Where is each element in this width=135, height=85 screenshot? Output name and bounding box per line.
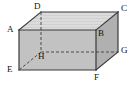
vertex-label-H: H	[38, 52, 45, 61]
cuboid-drawing	[0, 0, 135, 85]
vertex-label-A: A	[7, 25, 14, 34]
geometry-figure: A B C D E F G H	[0, 0, 135, 85]
vertex-label-D: D	[34, 2, 41, 11]
vertex-label-C: C	[121, 4, 127, 13]
vertex-label-B: B	[98, 29, 104, 38]
vertex-label-E: E	[7, 65, 13, 74]
vertex-label-G: G	[121, 46, 128, 55]
vertex-label-F: F	[94, 73, 99, 82]
front-face	[19, 30, 96, 70]
